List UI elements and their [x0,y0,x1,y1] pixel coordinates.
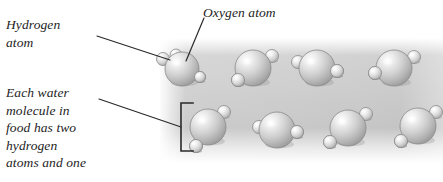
hydrogen-atom-sphere [369,67,382,80]
oxygen-atom-sphere [299,50,335,86]
hydrogen-atom-sphere [331,65,344,78]
hydrogen-atom-sphere [291,126,304,139]
oxygen-atom-sphere [165,52,199,86]
hydrogen-atom-sphere [324,136,337,149]
hydrogen-atom-sphere [395,135,408,148]
hydrogen-leader [97,36,170,60]
oxygen-atom-sphere [376,50,412,86]
figure-canvas: Hydrogen atom Oxygen atom Each water mol… [0,0,443,182]
hydrogen-atom-sphere [232,74,245,87]
label-water-molecule-description: Each water molecule in food has two hydr… [6,84,86,172]
hydrogen-atom-sphere [195,72,206,83]
oxygen-atom-sphere [259,112,295,148]
label-oxygen-atom: Oxygen atom [203,4,276,22]
label-hydrogen-atom: Hydrogen atom [6,16,60,51]
